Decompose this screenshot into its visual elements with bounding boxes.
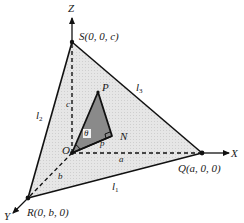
vertex-s-dot — [70, 40, 74, 44]
angle-theta-label: θ — [84, 129, 88, 138]
edge-l2-label: l2 — [36, 110, 43, 123]
edge-l1-label: l1 — [112, 181, 119, 194]
point-q-label: Q(a, 0, 0) — [178, 163, 221, 174]
segment-a-label: a — [119, 155, 124, 164]
vertex-r-dot — [26, 196, 31, 201]
y-axis-label: Y — [4, 211, 10, 222]
point-p-label: P — [102, 82, 109, 93]
vertex-p-dot — [96, 90, 99, 93]
segment-c-label: c — [66, 100, 70, 109]
edge-l2-subscript: 2 — [39, 115, 43, 123]
segment-p-label: p — [100, 139, 105, 148]
point-n-label: N — [120, 131, 127, 142]
segment-b-label: b — [58, 172, 63, 181]
point-r-label: R(0, b, 0) — [27, 207, 69, 218]
edge-l1-subscript: 1 — [115, 186, 119, 194]
edge-l3-label: l3 — [136, 82, 143, 95]
z-axis-label: Z — [68, 3, 74, 14]
point-s-label: S(0, 0, c) — [79, 31, 119, 42]
y-axis-arrow — [13, 198, 28, 213]
tetrahedron-diagram: Z X Y S(0, 0, c) Q(a, 0, 0) R(0, b, 0) O… — [0, 0, 244, 223]
vertex-q-dot — [200, 151, 205, 156]
plane-face-sqr — [28, 42, 202, 198]
x-axis-label: X — [231, 148, 238, 159]
edge-l3-subscript: 3 — [139, 87, 143, 95]
origin-label: O — [62, 145, 70, 156]
vertex-o-dot — [70, 151, 74, 155]
